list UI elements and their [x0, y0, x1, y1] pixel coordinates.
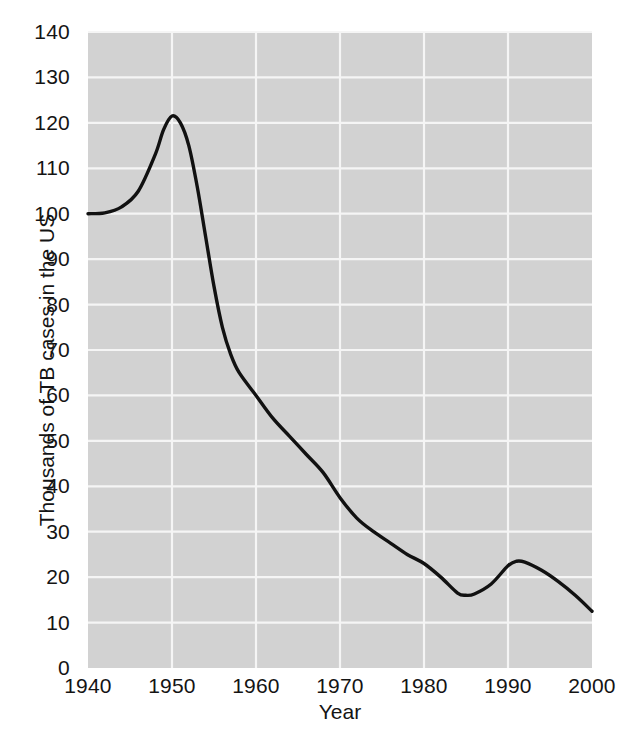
- x-tick-label: 1940: [64, 674, 112, 698]
- x-tick-label: 1970: [316, 674, 364, 698]
- x-tick-label: 2000: [568, 674, 616, 698]
- x-tick-label: 1960: [232, 674, 280, 698]
- chart-figure: 0102030405060708090100110120130140 19401…: [0, 0, 628, 738]
- y-axis-title: Thousands of TB cases in the US: [35, 160, 59, 580]
- x-tick-label: 1950: [148, 674, 196, 698]
- x-axis-tick-labels: 1940195019601970198019902000: [0, 0, 628, 738]
- x-tick-label: 1980: [400, 674, 448, 698]
- x-tick-label: 1990: [484, 674, 532, 698]
- x-axis-title: Year: [88, 700, 592, 724]
